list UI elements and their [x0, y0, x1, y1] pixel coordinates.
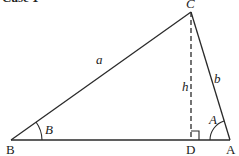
case-title: Case 1 [2, 0, 38, 5]
vertex-c-label: C [186, 0, 195, 11]
height-h-label: h [182, 79, 189, 94]
vertex-d-label: D [186, 142, 195, 156]
angle-b-arc [36, 122, 42, 140]
right-angle-marker [191, 131, 199, 140]
angle-b-label: B [45, 122, 53, 137]
angle-a-label: A [208, 112, 217, 127]
triangle-diagram: Case 1 C B D A a h b B A [0, 0, 239, 156]
vertex-a-label: A [226, 142, 236, 156]
side-a-line [11, 12, 191, 140]
side-a-label: a [96, 52, 103, 67]
vertex-b-label: B [6, 142, 15, 156]
side-b-label: b [214, 71, 221, 86]
